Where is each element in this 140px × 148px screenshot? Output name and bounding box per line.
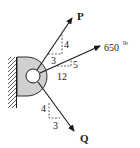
bracket xyxy=(17,57,47,96)
force-650lb-rise-label: 5 xyxy=(73,59,78,70)
force-q-run-label: 3 xyxy=(53,120,58,131)
wall-hatching xyxy=(8,57,16,108)
force-p-rise-label: 4 xyxy=(64,39,69,50)
force-q: Q 4 3 xyxy=(38,82,89,144)
force-650lb-arrow xyxy=(40,46,100,73)
force-650lb-run-label: 12 xyxy=(57,71,67,82)
pin-hole xyxy=(26,69,40,83)
force-q-rise-label: 4 xyxy=(41,103,46,114)
force-650lb-unit: lb xyxy=(123,40,128,46)
force-q-label: Q xyxy=(80,132,89,144)
force-p-label: P xyxy=(77,10,84,22)
wall-support xyxy=(8,57,17,108)
force-650lb-magnitude: 650 xyxy=(104,42,119,53)
force-p-run-label: 3 xyxy=(51,55,56,66)
statics-diagram: P 4 3 650 lb 5 12 Q 4 3 xyxy=(0,0,140,148)
